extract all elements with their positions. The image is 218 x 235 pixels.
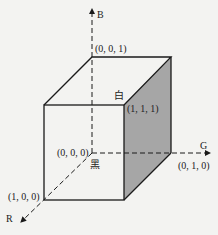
r-axis-label: R (6, 214, 13, 224)
white-label: 白 (114, 91, 124, 101)
vertex-blue-label: (0, 0, 1) (95, 44, 127, 54)
rgb-cube-diagram: B (0, 0, 1) 白 (1, 1, 1) (0, 0, 0) 黑 G (0… (0, 0, 218, 235)
b-axis-label: B (97, 10, 104, 20)
vertex-green-label: (0, 1, 0) (178, 161, 210, 171)
vertex-white-label: (1, 1, 1) (127, 104, 159, 114)
g-axis-label: G (200, 141, 207, 151)
black-label: 黑 (90, 160, 100, 170)
vertex-origin-label: (0, 0, 0) (57, 148, 89, 158)
shaded-face (124, 57, 171, 200)
vertex-red-label: (1, 0, 0) (8, 192, 40, 202)
r-axis (21, 153, 92, 222)
